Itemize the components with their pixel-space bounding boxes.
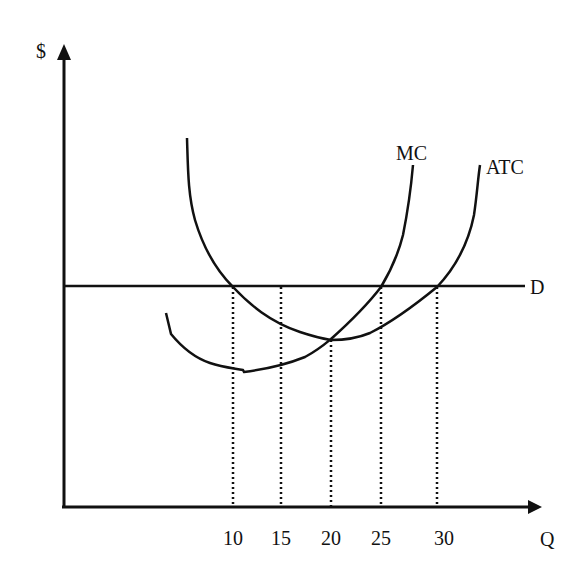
x-tick-25: 25	[371, 527, 391, 549]
mc-curve	[166, 165, 413, 372]
x-tick-20: 20	[321, 527, 341, 549]
x-axis-arrow-icon	[528, 500, 542, 514]
atc-curve	[187, 138, 480, 340]
x-tick-15: 15	[271, 527, 291, 549]
atc-label: ATC	[486, 156, 524, 178]
x-tick-30: 30	[434, 527, 454, 549]
x-axis-label: Q	[540, 528, 555, 550]
x-tick-10: 10	[223, 527, 243, 549]
cost-curves-diagram: $ Q D ATC MC 10 15 20 25 30	[0, 0, 582, 580]
mc-label: MC	[396, 142, 427, 164]
reference-lines	[233, 287, 437, 506]
y-axis-label: $	[36, 40, 46, 62]
demand-label: D	[530, 276, 544, 298]
y-axis-arrow-icon	[57, 44, 71, 60]
